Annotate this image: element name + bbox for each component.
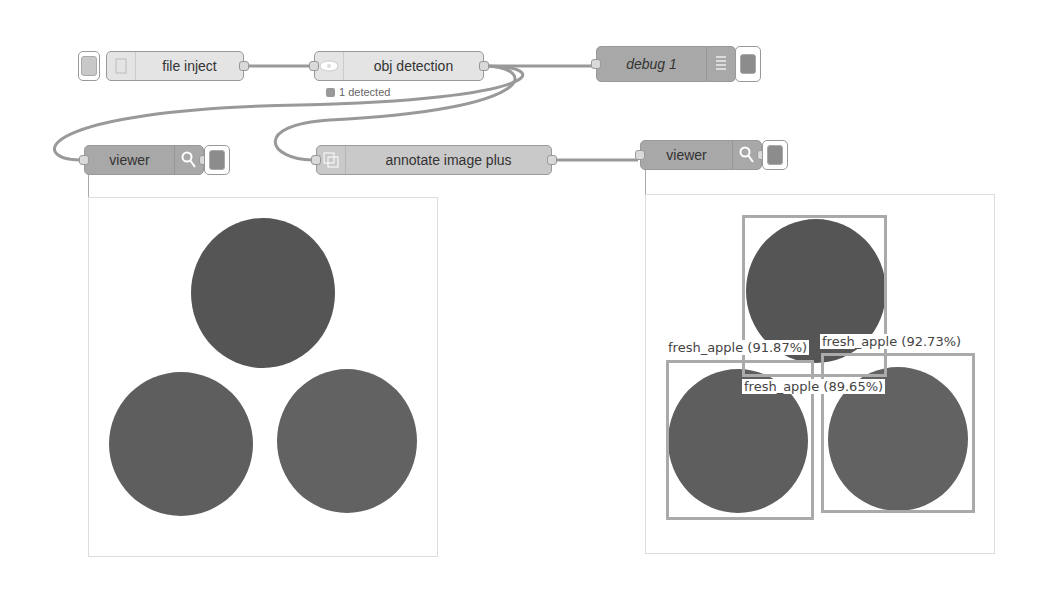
eye-icon xyxy=(315,52,344,80)
annotate-icon xyxy=(317,146,346,174)
status-dot-icon xyxy=(326,88,335,97)
file-icon xyxy=(107,52,136,80)
node-label: file inject xyxy=(136,58,243,74)
node-annotate-image[interactable]: annotate image plus xyxy=(316,145,552,175)
input-port[interactable] xyxy=(635,150,645,160)
debug-list-icon xyxy=(706,47,735,81)
input-port[interactable] xyxy=(311,155,321,165)
viewer-left-image xyxy=(88,197,438,557)
node-label: annotate image plus xyxy=(346,152,551,168)
viewer-left-toggle-button[interactable] xyxy=(204,145,230,175)
node-label: viewer xyxy=(85,152,174,168)
node-viewer-right[interactable]: viewer xyxy=(640,140,762,170)
input-port[interactable] xyxy=(309,61,319,71)
node-label: obj detection xyxy=(344,58,483,74)
input-port[interactable] xyxy=(79,155,89,165)
inject-trigger-icon xyxy=(81,56,97,76)
toggle-icon xyxy=(767,145,783,165)
node-label: viewer xyxy=(641,147,732,163)
viewer-stem xyxy=(645,170,646,194)
bounding-box xyxy=(821,353,975,513)
annotation-label: fresh_apple (89.65%) xyxy=(742,379,885,394)
node-obj-detection[interactable]: obj detection xyxy=(314,51,484,81)
output-port[interactable] xyxy=(479,61,489,71)
node-status: 1 detected xyxy=(326,86,390,98)
toggle-icon xyxy=(740,54,756,74)
node-debug[interactable]: debug 1 xyxy=(596,46,736,82)
viewer-right-toggle-button[interactable] xyxy=(762,140,788,170)
node-label: debug 1 xyxy=(597,56,706,72)
annotation-label: fresh_apple (92.73%) xyxy=(820,334,963,349)
apples-image xyxy=(89,198,437,556)
viewer-stem xyxy=(88,175,89,197)
debug-toggle-button[interactable] xyxy=(735,46,761,82)
toggle-icon xyxy=(209,150,225,170)
input-port[interactable] xyxy=(591,59,601,69)
output-port[interactable] xyxy=(239,61,249,71)
output-port[interactable] xyxy=(547,155,557,165)
node-file-inject[interactable]: file inject xyxy=(106,51,244,81)
inject-trigger-button[interactable] xyxy=(78,51,100,81)
node-viewer-left[interactable]: viewer xyxy=(84,145,204,175)
annotation-label: fresh_apple (91.87%) xyxy=(666,340,809,355)
viewer-right-image: fresh_apple (91.87%) fresh_apple (92.73%… xyxy=(645,194,995,554)
